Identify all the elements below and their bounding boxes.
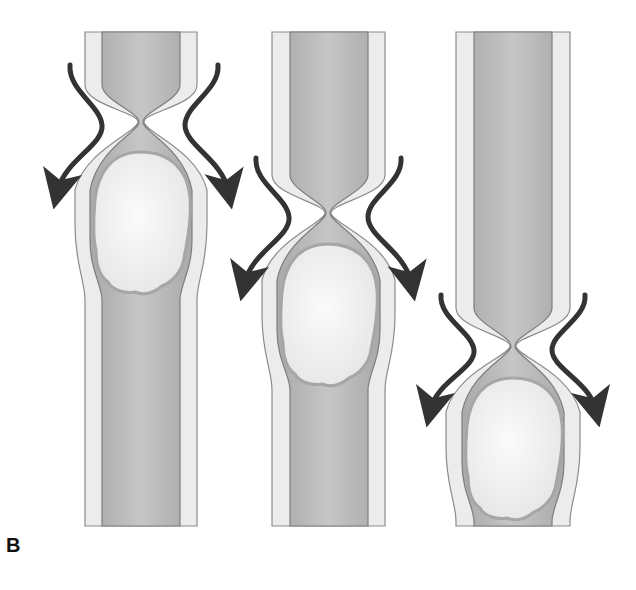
peristalsis-diagram — [0, 0, 636, 590]
panel-label: B — [6, 534, 20, 557]
tube-stage-2 — [262, 32, 395, 526]
bolus — [466, 378, 563, 520]
bolus — [281, 244, 378, 386]
tube-stage-3 — [446, 32, 580, 526]
bolus — [94, 152, 191, 294]
